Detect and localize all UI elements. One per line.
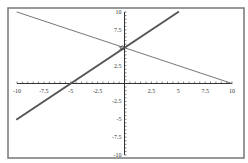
- y-tick-label: 2.5: [114, 63, 122, 69]
- x-tick-label: 5: [177, 88, 180, 94]
- x-tick-label: 10: [229, 88, 235, 94]
- y-tick-label: 7.5: [114, 27, 122, 33]
- y-tick-label: -7.5: [112, 134, 122, 140]
- y-tick-label: -2.5: [112, 98, 122, 104]
- x-tick-label: -2.5: [93, 88, 103, 94]
- y-tick-label: -5: [117, 116, 122, 122]
- graph-plot: -10-7.5-5-2.52.557.510107.552.5-2.5-5-7.…: [0, 0, 248, 163]
- x-tick-label: 7.5: [201, 88, 209, 94]
- x-tick-label: -5: [68, 88, 73, 94]
- y-tick-label: 10: [116, 9, 122, 15]
- x-tick-label: -10: [13, 88, 21, 94]
- y-tick-label: -10: [114, 152, 122, 158]
- x-tick-label: -7.5: [39, 88, 49, 94]
- x-tick-label: 2.5: [148, 88, 156, 94]
